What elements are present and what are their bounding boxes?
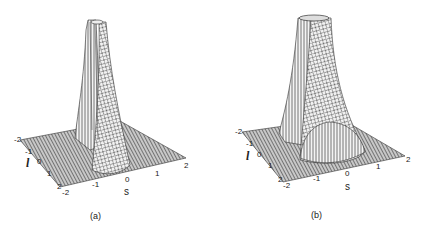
s-tick: 2 bbox=[184, 162, 188, 170]
l-tick: 0 bbox=[37, 158, 41, 166]
s-tick: 0 bbox=[345, 170, 349, 178]
l-tick: -2 bbox=[235, 128, 242, 136]
s-tick: 1 bbox=[155, 170, 159, 178]
s-axis-label: s bbox=[345, 182, 350, 192]
l-tick: -1 bbox=[25, 148, 32, 156]
s-tick: -2 bbox=[283, 182, 290, 190]
l-tick: 1 bbox=[47, 170, 51, 178]
l-tick: 2 bbox=[57, 183, 61, 191]
s-tick: 0 bbox=[125, 176, 129, 184]
panel-caption: (a) bbox=[90, 211, 101, 221]
surface-plot-b bbox=[213, 0, 426, 235]
l-axis-label: l bbox=[246, 150, 249, 162]
panel-caption: (b) bbox=[311, 210, 322, 220]
s-tick: 1 bbox=[376, 163, 380, 171]
s-tick: -2 bbox=[62, 189, 69, 197]
s-axis-label: s bbox=[124, 187, 129, 197]
l-tick: -2 bbox=[14, 136, 21, 144]
l-tick: 2 bbox=[278, 176, 282, 184]
s-tick: -1 bbox=[92, 181, 99, 189]
s-tick: 2 bbox=[406, 156, 410, 164]
l-tick: -1 bbox=[246, 140, 253, 148]
l-axis-label: l bbox=[26, 157, 29, 169]
l-tick: 0 bbox=[257, 151, 261, 159]
s-tick: -1 bbox=[313, 175, 320, 183]
panel-a: -2 -1 0 1 2 l -2 -1 0 1 2 s (a) bbox=[0, 0, 213, 235]
l-tick: 1 bbox=[268, 162, 272, 170]
surface-plot-a bbox=[0, 0, 213, 235]
panel-b: -2 -1 0 1 2 l -2 -1 0 1 2 s (b) bbox=[213, 0, 426, 235]
